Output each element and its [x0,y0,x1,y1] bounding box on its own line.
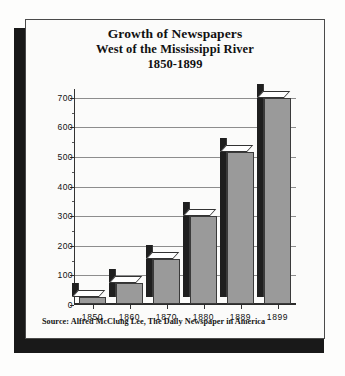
y-axis-label: 0 [33,300,73,310]
x-axis-tick [93,305,94,309]
y-axis-minor-tick [72,201,75,202]
bar-side-face [220,138,227,297]
bar-side-face [183,202,190,297]
chart-title: Growth of Newspapers West of the Mississ… [26,26,324,73]
bar-top-face [109,276,142,283]
bar-top-face [257,91,290,98]
y-axis-label: 200 [33,241,73,251]
chart-card: Growth of Newspapers West of the Mississ… [25,19,325,339]
x-axis-tick [278,305,279,309]
y-axis-label: 700 [33,93,73,103]
x-axis-line [74,303,296,305]
y-axis-label: 400 [33,182,73,192]
x-axis-label-1899: 1899 [267,312,288,322]
bar-front-face [264,98,291,304]
y-axis-line [74,89,75,305]
bar-top-face [220,145,253,152]
figure-root: Growth of Newspapers West of the Mississ… [0,0,345,376]
bar-front-face [79,297,106,304]
bar-1850 [79,290,106,304]
y-axis-minor-tick [72,172,75,173]
x-axis-tick [167,305,168,309]
bar-top-face [72,290,105,297]
bar-top-face [146,252,179,259]
y-axis-minor-tick [72,113,75,114]
bar-front-face [190,216,217,304]
y-axis-label: 600 [33,122,73,132]
bar-front-face [116,283,143,304]
bar-1880 [190,209,217,304]
x-axis-tick [241,305,242,309]
y-axis-label: 300 [33,211,73,221]
bar-1889 [227,145,254,304]
y-axis-minor-tick [72,261,75,262]
bar-top-face [183,209,216,216]
bar-1870 [153,252,180,304]
bar-side-face [257,84,264,297]
y-axis-minor-tick [72,231,75,232]
bar-1860 [116,276,143,304]
title-line-2: West of the Mississippi River [26,42,324,58]
bar-front-face [153,259,180,304]
x-axis-tick [130,305,131,309]
bar-front-face [227,152,254,304]
title-line-1: Growth of Newspapers [26,26,324,42]
title-line-3: 1850-1899 [26,57,324,73]
y-axis-label: 100 [33,270,73,280]
x-axis-tick [204,305,205,309]
plot-area: 0100200300400500600700185018601870188018… [74,89,296,305]
y-axis-minor-tick [72,142,75,143]
source-note: Source: Alfred McClung Lee, The Daily Ne… [42,317,265,326]
bar-1899 [264,91,291,304]
y-axis-label: 500 [33,152,73,162]
